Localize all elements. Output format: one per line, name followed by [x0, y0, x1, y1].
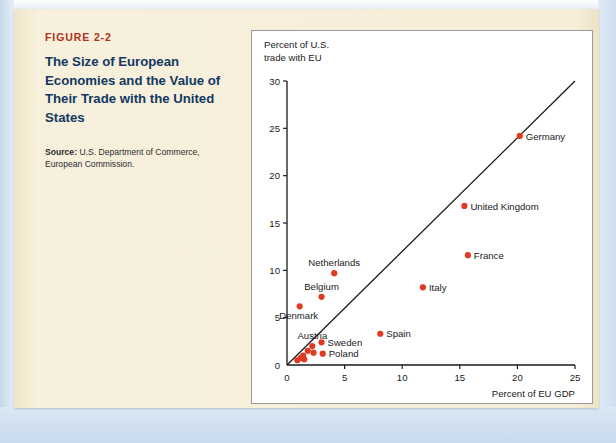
- figure-caption-block: FIGURE 2-2 The Size of European Economie…: [45, 31, 235, 171]
- x-axis-title: Percent of EU GDP: [492, 388, 575, 399]
- data-point-label: Austria: [297, 330, 328, 341]
- data-point: [297, 303, 303, 309]
- chart-card: Percent of U.S.trade with EU051015202530…: [251, 30, 593, 404]
- figure-panel: FIGURE 2-2 The Size of European Economie…: [14, 9, 599, 408]
- figure-page: FIGURE 2-2 The Size of European Economie…: [0, 0, 616, 443]
- data-point: [318, 294, 324, 300]
- y-axis-tick-label: 30: [269, 76, 280, 87]
- data-point: [517, 133, 523, 139]
- data-point-label: Sweden: [328, 337, 363, 348]
- figure-source: Source: U.S. Department of Commerce, Eur…: [45, 146, 235, 171]
- y-axis-title-line2: trade with EU: [264, 52, 322, 63]
- figure-title: The Size of European Economies and the V…: [45, 53, 235, 128]
- y-axis-title-line1: Percent of U.S.: [264, 39, 329, 50]
- y-axis-tick-label: 20: [269, 170, 280, 181]
- figure-number: FIGURE 2-2: [45, 31, 235, 43]
- page-scan-right-edge: [598, 0, 616, 443]
- x-axis-tick-label: 0: [284, 372, 289, 383]
- data-point: [294, 357, 300, 363]
- data-point: [461, 203, 467, 209]
- data-point-label: France: [474, 250, 504, 261]
- page-scan-bottom-edge: [0, 407, 616, 443]
- page-scan-left-edge: [0, 0, 14, 443]
- data-point-label: Germany: [526, 131, 566, 142]
- data-point-label: Netherlands: [308, 257, 360, 268]
- x-axis-tick-label: 25: [570, 372, 581, 383]
- x-axis-tick-label: 5: [342, 372, 347, 383]
- y-axis-tick-label: 15: [269, 218, 280, 229]
- y-axis-tick-label: 0: [275, 360, 280, 371]
- data-point: [309, 343, 315, 349]
- data-point-label: Denmark: [279, 310, 318, 321]
- x-axis-tick-label: 10: [397, 372, 408, 383]
- data-point: [377, 331, 383, 337]
- y-axis-tick-label: 10: [269, 265, 280, 276]
- data-point: [305, 348, 311, 354]
- scatter-plot: Percent of U.S.trade with EU051015202530…: [252, 31, 592, 403]
- data-point-label: Belgium: [304, 281, 339, 292]
- data-point: [420, 284, 426, 290]
- y-axis-tick-label: 25: [269, 123, 280, 134]
- data-point: [320, 351, 326, 357]
- data-point-label: United Kingdom: [470, 201, 538, 212]
- reference-line-45-degree: [287, 81, 575, 365]
- data-point-label: Poland: [329, 348, 359, 359]
- data-point: [331, 270, 337, 276]
- data-point-label: Italy: [429, 282, 447, 293]
- source-label: Source:: [45, 147, 77, 157]
- data-point: [310, 350, 316, 356]
- x-axis-tick-label: 20: [512, 372, 523, 383]
- x-axis-tick-label: 15: [454, 372, 465, 383]
- data-point: [301, 356, 307, 362]
- data-point-label: Spain: [386, 328, 411, 339]
- data-point: [465, 252, 471, 258]
